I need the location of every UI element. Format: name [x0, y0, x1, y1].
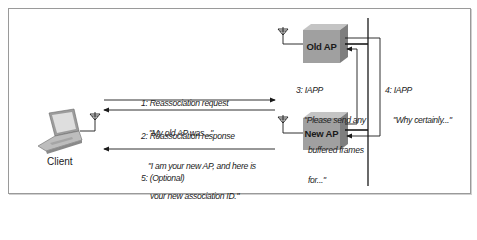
- message-5-label: 5: (Optional) "Here are some frames buff…: [141, 153, 243, 199]
- old-ap-antenna-icon: [278, 27, 303, 44]
- old-ap-label: Old AP: [303, 41, 340, 52]
- client-antenna-icon: [80, 112, 100, 131]
- message-3-label: 3: IAPP "Please send any buffered frames…: [296, 65, 366, 195]
- laptop-icon: [38, 109, 82, 154]
- message-4-label: 4: IAPP "Why certainly...": [385, 65, 452, 135]
- client-label: Client: [47, 156, 73, 167]
